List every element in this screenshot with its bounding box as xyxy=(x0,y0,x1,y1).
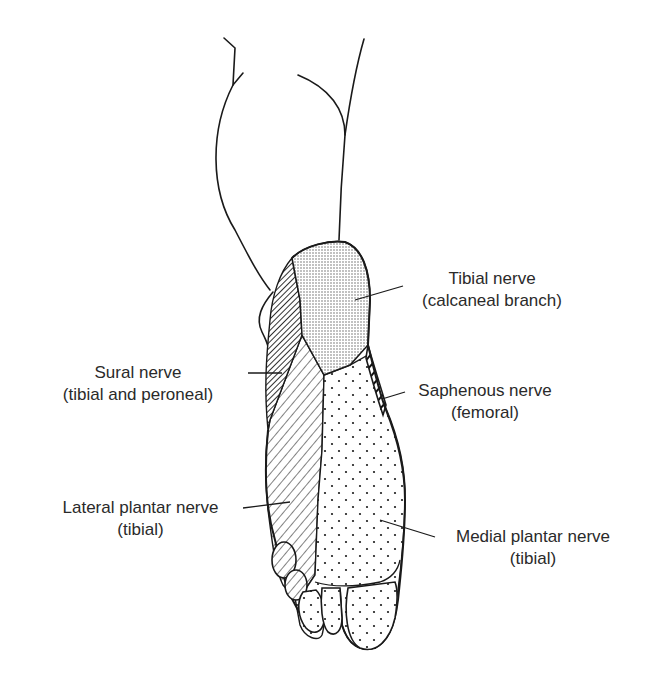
label-lateral-plantar-nerve: Lateral plantar nerve (tibial) xyxy=(38,497,243,541)
label-medial-plantar-line1: Medial plantar nerve xyxy=(438,526,628,548)
leader-saphenous xyxy=(382,392,405,399)
label-medial-plantar-nerve: Medial plantar nerve (tibial) xyxy=(438,526,628,570)
label-sural-nerve: Sural nerve (tibial and peroneal) xyxy=(38,362,238,406)
foot-nerve-diagram: Tibial nerve (calcaneal branch) Sural ne… xyxy=(0,0,663,674)
foot-illustration xyxy=(0,0,663,674)
label-saphenous-line2: (femoral) xyxy=(405,402,565,424)
label-sural-line2: (tibial and peroneal) xyxy=(38,384,238,406)
label-tibial-nerve: Tibial nerve (calcaneal branch) xyxy=(402,268,582,312)
label-tibial-line1: Tibial nerve xyxy=(402,268,582,290)
label-lateral-plantar-line2: (tibial) xyxy=(38,519,243,541)
label-saphenous-line1: Saphenous nerve xyxy=(405,380,565,402)
label-sural-line1: Sural nerve xyxy=(38,362,238,384)
label-lateral-plantar-line1: Lateral plantar nerve xyxy=(38,497,243,519)
toe-2 xyxy=(321,588,342,634)
label-medial-plantar-line2: (tibial) xyxy=(438,548,628,570)
label-tibial-line2: (calcaneal branch) xyxy=(402,290,582,312)
toe-1 xyxy=(346,582,397,649)
label-saphenous-nerve: Saphenous nerve (femoral) xyxy=(405,380,565,424)
